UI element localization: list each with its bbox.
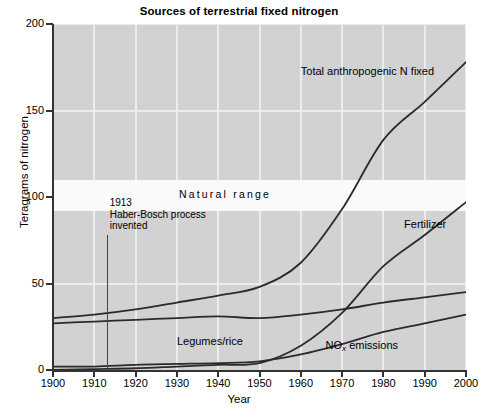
x-tick-label: 1940 (198, 377, 238, 389)
x-tick-label: 1960 (281, 377, 321, 389)
annotation-line: Haber-Bosch process (110, 209, 206, 221)
x-tick-label: 1980 (363, 377, 403, 389)
x-axis-title: Year (0, 393, 478, 405)
y-tick-mark (46, 110, 53, 112)
series-label: Fertilizer (404, 218, 446, 230)
annotation-line: invented (110, 220, 206, 232)
series-line (53, 315, 466, 367)
y-axis-title: Teragrams of nitrogen (18, 72, 30, 272)
y-tick-mark (46, 23, 53, 25)
y-tick-label: 0 (0, 363, 44, 375)
y-tick-label: 200 (0, 17, 44, 29)
annotation-line: 1913 (110, 197, 206, 209)
series-line (53, 292, 466, 323)
x-tick-label: 1900 (33, 377, 73, 389)
x-tick-label: 1970 (322, 377, 362, 389)
x-tick-label: 1950 (240, 377, 280, 389)
chart-title: Sources of terrestrial fixed nitrogen (0, 5, 478, 17)
plot-area: Natural range Total anthropogenic N fixe… (53, 24, 466, 370)
haber-bosch-annotation: 1913Haber-Bosch processinvented (110, 197, 206, 232)
haber-bosch-marker-line (107, 235, 108, 370)
x-tick-label: 1910 (74, 377, 114, 389)
y-tick-mark (46, 196, 53, 198)
series-line (53, 62, 466, 318)
x-tick-label: 1920 (116, 377, 156, 389)
x-tick-label: 1990 (405, 377, 445, 389)
series-label: NOx emissions (326, 339, 398, 353)
series-label: Legumes/rice (177, 335, 243, 347)
y-tick-label: 50 (0, 277, 44, 289)
x-tick-label: 1930 (157, 377, 197, 389)
y-tick-mark (46, 283, 53, 285)
series-label: Total anthropogenic N fixed (301, 65, 434, 77)
x-tick-label: 2000 (446, 377, 483, 389)
